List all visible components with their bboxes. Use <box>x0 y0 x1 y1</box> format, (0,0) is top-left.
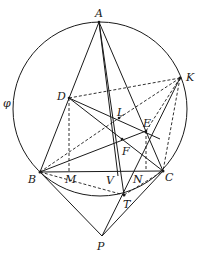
segment-BE <box>40 131 146 172</box>
point-K <box>179 77 182 80</box>
segment-PK <box>102 78 180 236</box>
point-B <box>39 171 42 174</box>
point-E <box>145 130 148 133</box>
label-V: V <box>106 174 115 187</box>
label-L: L <box>116 106 124 119</box>
label-N: N <box>132 173 143 186</box>
label-F: F <box>121 145 130 158</box>
segment-BC <box>40 171 163 172</box>
label-T: T <box>123 198 132 211</box>
geometry-diagram: φ A K D L E F B M V N C T P <box>0 0 203 254</box>
label-phi: φ <box>3 97 11 110</box>
label-P: P <box>96 240 105 253</box>
label-D: D <box>56 90 66 103</box>
point-A <box>98 21 101 24</box>
label-E: E <box>142 117 151 130</box>
point-T <box>123 194 126 197</box>
point-D <box>68 97 71 100</box>
label-K: K <box>185 71 195 84</box>
segment-KL <box>119 78 180 118</box>
label-A: A <box>94 7 103 20</box>
label-M: M <box>64 173 77 186</box>
segment-BL <box>40 118 119 172</box>
point-F <box>121 138 124 141</box>
label-C: C <box>165 171 174 184</box>
label-B: B <box>27 173 36 186</box>
